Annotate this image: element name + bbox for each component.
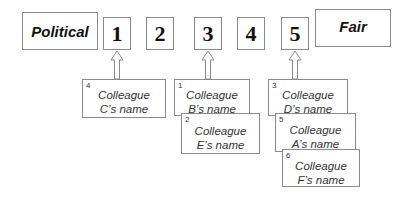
scale-point-4-label: 4	[246, 21, 257, 47]
card-name: Colleague B’s name	[175, 88, 249, 116]
colleague-card-f: 6 Colleague F’s name	[282, 149, 360, 187]
card-name-line1: Colleague	[182, 124, 259, 138]
scale-point-1: 1	[103, 17, 131, 50]
card-rank: 2	[185, 115, 189, 124]
scale-point-1-label: 1	[112, 21, 123, 47]
scale-point-4: 4	[237, 17, 265, 50]
card-name: Colleague D’s name	[269, 88, 347, 116]
scale-point-3: 3	[194, 17, 222, 50]
card-name-line2: C’s name	[83, 102, 165, 116]
scale-point-3-label: 3	[203, 21, 214, 47]
card-name: Colleague F’s name	[283, 159, 359, 187]
card-name-line1: Colleague	[283, 159, 359, 173]
up-arrow-icon-point-3	[201, 50, 215, 80]
political-label: Political	[31, 23, 89, 40]
card-name: Colleague A’s name	[276, 123, 355, 151]
card-name-line2: E’s name	[182, 138, 259, 152]
fair-label-box: Fair	[315, 9, 391, 47]
card-name-line2: F’s name	[283, 173, 359, 187]
up-arrow-icon-point-5	[288, 50, 302, 80]
card-name: Colleague C’s name	[83, 88, 165, 116]
card-name-line1: Colleague	[269, 88, 347, 102]
fair-label: Fair	[339, 18, 367, 35]
card-name-line1: Colleague	[83, 88, 165, 102]
scale-point-5-label: 5	[290, 21, 301, 47]
scale-point-2: 2	[146, 17, 174, 50]
card-name: Colleague E’s name	[182, 124, 259, 152]
scale-point-2-label: 2	[155, 21, 166, 47]
card-name-line1: Colleague	[276, 123, 355, 137]
colleague-card-e: 2 Colleague E’s name	[181, 113, 260, 154]
colleague-card-b: 1 Colleague B’s name	[174, 79, 250, 116]
colleague-card-c: 4 Colleague C’s name	[82, 79, 166, 118]
political-label-box: Political	[22, 12, 98, 50]
scale-point-5: 5	[281, 17, 309, 50]
up-arrow-icon-point-1	[110, 50, 124, 80]
card-name-line1: Colleague	[175, 88, 249, 102]
colleague-card-d: 3 Colleague D’s name	[268, 79, 348, 116]
colleague-card-a: 5 Colleague A’s name	[275, 113, 356, 152]
